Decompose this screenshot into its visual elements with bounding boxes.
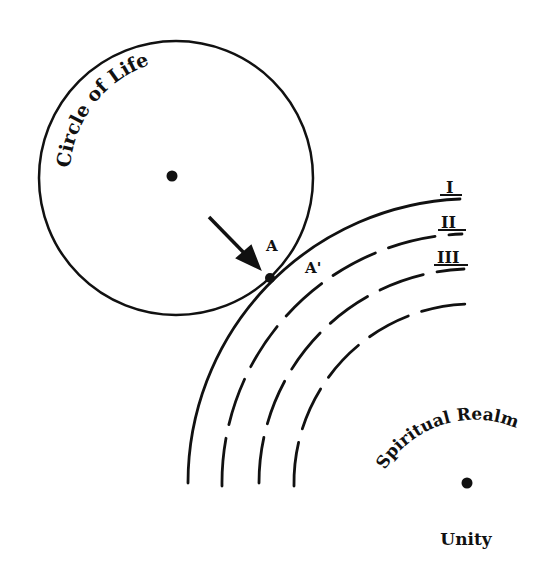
label-a-prime: A' [304, 259, 321, 277]
contact-point-a [265, 273, 275, 283]
arrow-to-a [209, 217, 260, 269]
spiritual-realm-arcs [188, 199, 466, 486]
unity-label: Unity [440, 529, 492, 549]
circle-of-life-label: Circle of Life [52, 48, 151, 169]
level-i-arc [188, 199, 460, 483]
label-a: A [265, 237, 278, 255]
spiritual-realm-label: Spiritual Realm [372, 404, 522, 473]
circle-of-life-center-dot [167, 171, 178, 182]
level-iii-arc [259, 269, 464, 483]
circle-of-life-diagram: Circle of Life A A' I II III Spiritual R… [0, 0, 553, 580]
unity-center-dot [462, 478, 473, 489]
